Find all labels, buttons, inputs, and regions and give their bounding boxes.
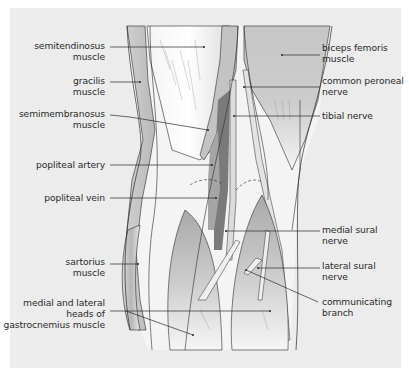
label-semimembranosus: semimembranosus muscle [19,108,105,130]
label-popliteal-vein: popliteal vein [44,192,105,203]
label-semitendinosus: semitendinosus muscle [34,40,105,62]
label-medial-sural: medial sural nerve [322,224,377,246]
label-tibial-nerve: tibial nerve [322,110,373,121]
label-biceps-femoris: biceps femoris muscle [322,42,388,64]
label-common-peroneal: common peroneal nerve [322,75,404,97]
label-popliteal-artery: popliteal artery [36,159,105,170]
label-lateral-sural: lateral sural nerve [322,260,376,282]
label-gastrocnemius: medial and lateral heads of gastrocnemiu… [4,297,105,330]
label-communicating-branch: communicating branch [322,296,392,318]
label-sartorius: sartorius muscle [66,256,105,278]
label-gracilis: gracilis muscle [73,75,105,97]
